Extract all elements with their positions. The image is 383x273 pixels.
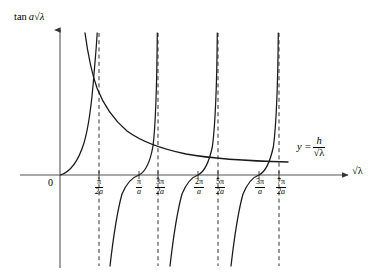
y-axis-label: tana√λ [14, 12, 44, 23]
tick-denominator: 2a [276, 188, 286, 197]
curve-equation-lhs: y = [297, 141, 311, 152]
tick-denominator: 2a [95, 188, 103, 197]
tick-denominator: a [255, 188, 265, 197]
tangent-branch-4 [231, 33, 278, 266]
plot-area [0, 0, 383, 273]
tick-label-3pi-over-a: 3π a [255, 178, 265, 197]
tick-label-3pi-over-2a: 3π 2a [155, 178, 165, 197]
x-axis-label: √λ [352, 166, 363, 177]
tick-denominator: 2a [155, 188, 165, 197]
tick-denominator: 2a [215, 188, 225, 197]
y-axis-label-function: tan [14, 11, 27, 22]
tangent-branch-2 [110, 33, 157, 266]
tick-label-2pi-over-a: 2π a [194, 178, 204, 197]
figure-canvas: tana√λ √λ 0 π 2a π a 3π 2a 2π a 5π 2a 3π… [0, 0, 383, 273]
tick-denominator: a [136, 188, 142, 197]
tick-label-pi-over-a: π a [136, 178, 142, 197]
origin-label: 0 [48, 178, 53, 188]
curve-equation-label: y = h √λ [297, 136, 325, 159]
tangent-branch-1 [61, 33, 98, 175]
decay-curve-group [85, 33, 288, 162]
tick-label-pi-over-2a: π 2a [95, 178, 103, 197]
tick-denominator: a [194, 188, 204, 197]
tangent-branch-3 [170, 33, 217, 266]
tick-label-7pi-over-2a: 7π 2a [276, 178, 286, 197]
curve-equation-denominator: √λ [313, 148, 324, 159]
curve-equation-fraction: h √λ [313, 136, 324, 159]
h-over-sqrt-lambda-curve [85, 33, 288, 162]
curve-equation-numerator: h [313, 136, 324, 148]
tick-label-5pi-over-2a: 5π 2a [215, 178, 225, 197]
y-axis-label-variable: a√λ [27, 11, 45, 22]
vertical-asymptotes [99, 33, 279, 266]
